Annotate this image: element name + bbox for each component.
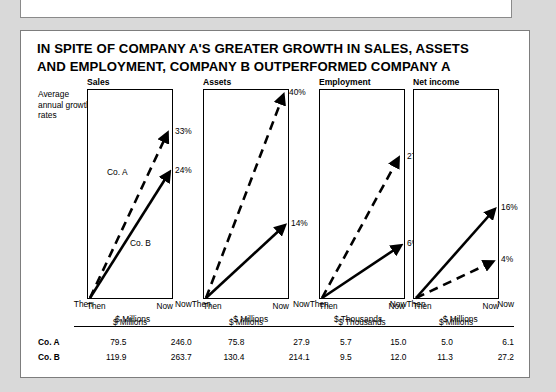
plot-area: [203, 89, 289, 299]
plot-area: [413, 89, 499, 299]
growth-arrows: [204, 90, 290, 300]
cell: 9.5: [310, 347, 352, 363]
growth-label-co-b: 14%: [291, 218, 308, 228]
cell: 130.4: [192, 347, 245, 363]
table-header-row: Then Now Then Now Then Now Then Now: [38, 299, 514, 314]
plot-area: [319, 89, 405, 299]
cell: 12.0: [352, 347, 407, 363]
column-rule: [192, 326, 310, 327]
cell: 119.9: [74, 347, 127, 363]
growth-label-co-b: 16%: [501, 202, 518, 212]
table-row: Co. A 79.5 246.0 75.8 27.9 5.7 15.0 5.0 …: [38, 331, 514, 347]
cell: 6.1: [453, 331, 514, 347]
cell: 79.5: [74, 331, 127, 347]
col-header: Now: [126, 299, 191, 314]
column-rule: [310, 326, 407, 327]
data-table: Then Now Then Now Then Now Then Now $ Mi…: [38, 299, 514, 362]
cell: 246.0: [126, 331, 191, 347]
growth-label-co-a: 40%: [289, 87, 306, 97]
panel-title: Employment: [319, 77, 371, 87]
growth-label-co-a: 4%: [501, 254, 513, 264]
growth-label-co-a: 33%: [175, 126, 192, 136]
page-title: IN SPITE OF COMPANY A'S GREATER GROWTH I…: [37, 40, 517, 76]
panel-title: Assets: [203, 77, 231, 87]
series-line-co-a: [416, 262, 492, 298]
units-cell: $ Millions: [407, 314, 515, 326]
series-line-co-a: [90, 134, 167, 298]
series-line-co-b: [416, 210, 494, 298]
page-top-strip: [20, 0, 512, 18]
page-title-line-2: AND EMPLOYMENT, COMPANY B OUTPERFORMED C…: [37, 58, 517, 76]
growth-arrows: [88, 90, 174, 300]
row-label: Co. B: [38, 347, 74, 363]
table-row: Co. B 119.9 263.7 130.4 214.1 9.5 12.0 1…: [38, 347, 514, 363]
col-header: Now: [244, 299, 309, 314]
col-header: Now: [453, 299, 514, 314]
series-line-co-a: [322, 159, 398, 298]
table-units-row: $ Millions $ Millions $ Thousands $ Mill…: [38, 314, 514, 326]
panel-title: Sales: [87, 77, 109, 87]
column-rule: [407, 326, 515, 327]
page-title-line-1: IN SPITE OF COMPANY A'S GREATER GROWTH I…: [37, 40, 517, 58]
series-line-co-b: [90, 173, 169, 298]
cell: 214.1: [244, 347, 309, 363]
exhibit-card: IN SPITE OF COMPANY A'S GREATER GROWTH I…: [20, 30, 530, 378]
growth-arrows: [320, 90, 406, 300]
row-label: Co. A: [38, 331, 74, 347]
units-cell: $ Millions: [74, 314, 192, 326]
column-rule: [74, 326, 192, 327]
growth-arrows: [414, 90, 500, 300]
units-cell: $ Millions: [192, 314, 310, 326]
series-label-co-a: Co. A: [107, 167, 127, 177]
panel-title: Net income: [413, 77, 459, 87]
col-header: Now: [352, 299, 407, 314]
series-line-co-b: [322, 246, 400, 298]
cell: 75.8: [192, 331, 245, 347]
series-line-co-b: [206, 226, 284, 298]
col-header: Then: [310, 299, 352, 314]
cell: 5.7: [310, 331, 352, 347]
series-line-co-a: [206, 96, 283, 298]
plot-area: Co. A Co. B: [87, 89, 173, 299]
col-header: Then: [192, 299, 245, 314]
cell: 5.0: [407, 331, 453, 347]
col-header: Then: [407, 299, 453, 314]
growth-label-co-b: 24%: [175, 165, 192, 175]
cell: 27.2: [453, 347, 514, 363]
units-cell: $ Thousands: [310, 314, 407, 326]
cell: 27.9: [244, 331, 309, 347]
cell: 263.7: [126, 347, 191, 363]
cell: 15.0: [352, 331, 407, 347]
col-header: Then: [74, 299, 127, 314]
cell: 11.3: [407, 347, 453, 363]
series-label-co-b: Co. B: [130, 238, 151, 248]
